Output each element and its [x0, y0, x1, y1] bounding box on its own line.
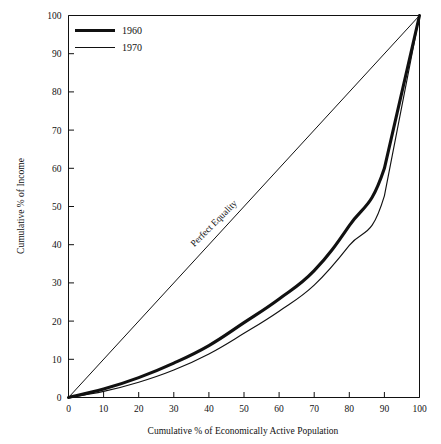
x-axis-tick-labels: 0102030405060708090100: [66, 404, 427, 414]
legend-label-1960: 1960: [122, 25, 142, 36]
legend-label-1970: 1970: [122, 42, 142, 53]
y-tick-label-90: 90: [52, 49, 62, 59]
x-tick-label-10: 10: [99, 404, 109, 414]
y-tick-label-60: 60: [52, 164, 62, 174]
y-tick-label-50: 50: [52, 202, 62, 212]
x-tick-label-80: 80: [345, 404, 355, 414]
y-axis-title: Cumulative % of Income: [16, 158, 26, 254]
x-tick-label-50: 50: [239, 404, 249, 414]
y-tick-label-80: 80: [52, 87, 62, 97]
y-tick-label-10: 10: [52, 355, 62, 365]
y-tick-label-70: 70: [52, 126, 62, 136]
x-axis-ticks: [69, 392, 420, 398]
perfect-equality-label: Perfect Equality: [189, 198, 240, 249]
y-tick-label-100: 100: [47, 11, 62, 21]
x-tick-label-0: 0: [66, 404, 71, 414]
y-tick-label-40: 40: [52, 240, 62, 250]
x-axis-title: Cumulative % of Economically Active Popu…: [148, 426, 339, 436]
chart-canvas: 0102030405060708090100 01020304050607080…: [0, 0, 441, 444]
y-tick-label-0: 0: [57, 393, 62, 403]
x-tick-label-60: 60: [274, 404, 284, 414]
lorenz-curve-figure: 0102030405060708090100 01020304050607080…: [0, 0, 441, 444]
y-axis-tick-labels: 0102030405060708090100: [47, 11, 62, 403]
x-tick-label-30: 30: [169, 404, 179, 414]
x-tick-label-40: 40: [204, 404, 214, 414]
x-tick-label-20: 20: [134, 404, 144, 414]
legend: 1960 1970: [75, 25, 142, 53]
x-tick-label-100: 100: [412, 404, 427, 414]
x-tick-label-70: 70: [309, 404, 319, 414]
y-tick-label-30: 30: [52, 278, 62, 288]
x-tick-label-90: 90: [380, 404, 390, 414]
y-axis-ticks: [69, 16, 75, 398]
y-tick-label-20: 20: [52, 317, 62, 327]
